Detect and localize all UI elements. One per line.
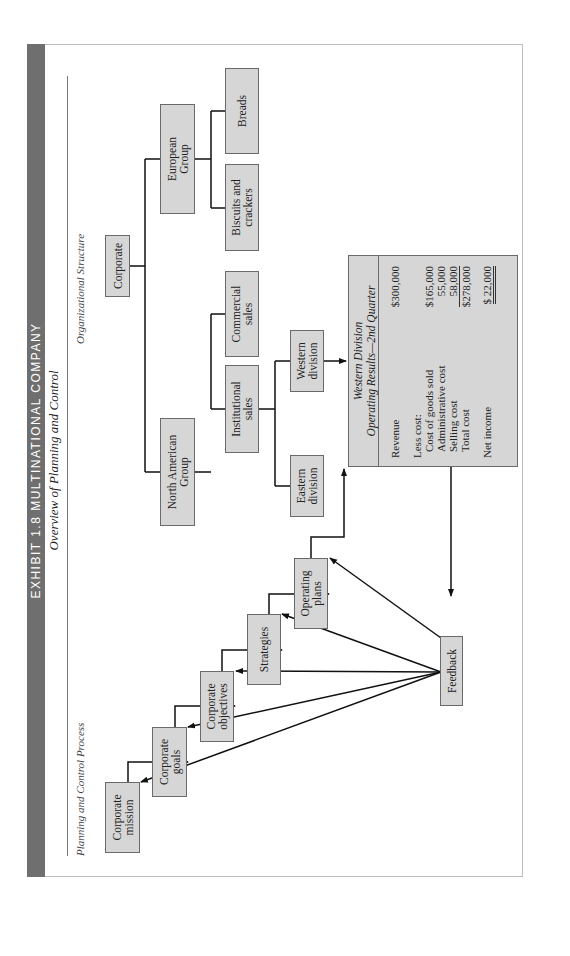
step-corporate-goals: Corporate goals — [152, 727, 187, 797]
report-row-cogs: Cost of goods sold $165,000 — [423, 266, 435, 458]
step-operating-plans: Operating plans — [294, 558, 328, 629]
org-institutional-sales: Institutional sales — [225, 365, 259, 453]
org-eastern-division: Eastern division — [290, 455, 324, 517]
report-row-less-cost: Less cost: — [411, 266, 423, 458]
report-row-admin: Administrative cost 55,000 — [435, 266, 447, 458]
report-header: Western Division Operating Results—2nd Q… — [349, 256, 379, 466]
report-row-revenue: Revenue $300,000 — [389, 266, 401, 458]
report-row-net-income: Net income $ 22,000 — [481, 266, 493, 458]
exhibit-page: EXHIBIT 1.8 MULTINATIONAL COMPANY Overvi… — [0, 0, 570, 956]
org-commercial-sales: Commercial sales — [225, 271, 259, 357]
step-strategies: Strategies — [247, 614, 281, 685]
org-corporate: Corporate — [105, 235, 130, 297]
org-breads: Breads — [225, 68, 259, 154]
org-european-group: European Group — [160, 104, 195, 214]
org-north-american-group: North American Group — [160, 418, 195, 526]
report-subtitle: Operating Results—2nd Quarter — [365, 256, 378, 466]
report-row-selling: Selling cost 58,000 — [447, 266, 459, 458]
org-biscuits-crackers: Biscuits and crackers — [225, 164, 259, 251]
connector-lines — [0, 0, 570, 956]
report-row-total: Total cost $278,000 — [459, 266, 471, 458]
western-division-report: Western Division Operating Results—2nd Q… — [348, 255, 518, 467]
org-western-division: Western division — [290, 330, 324, 392]
feedback-box: Feedback — [440, 636, 463, 706]
step-corporate-objectives: Corporate objectives — [200, 671, 234, 742]
report-title: Western Division — [352, 256, 365, 466]
step-corporate-mission: Corporate mission — [105, 782, 140, 853]
